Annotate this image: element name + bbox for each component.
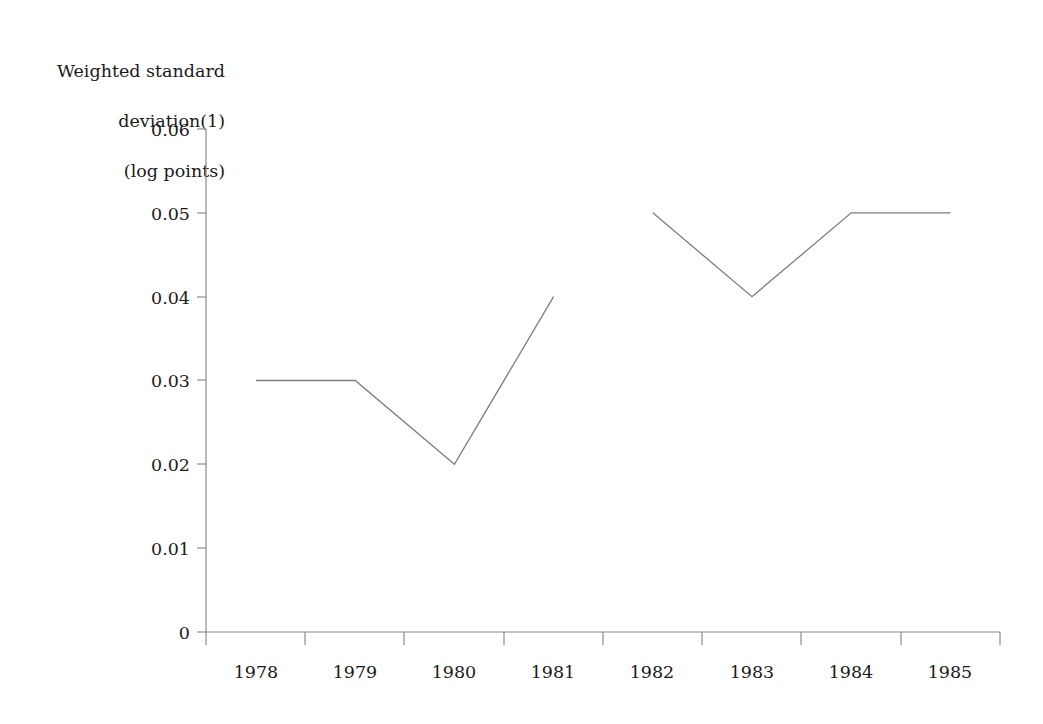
data-line-2: [653, 213, 951, 297]
x-tick-label-1984: 1984: [829, 662, 874, 682]
y-tick-label-0.05: 0.05: [151, 204, 190, 224]
x-axis-ticks: [206, 632, 1000, 645]
x-tick-label-1978: 1978: [234, 662, 279, 682]
x-axis-tick-labels: 1978 1979 1980 1981 1982 1983 1984 1985: [234, 662, 973, 682]
y-tick-label-0.06: 0.06: [151, 120, 190, 140]
chart-plot-area: 0.06 0.05 0.04 0.03 0.02 0.01 0 1978 197…: [0, 0, 1043, 724]
data-series-group: [256, 213, 950, 464]
y-axis-ticks: [197, 129, 206, 632]
y-tick-label-0: 0: [179, 623, 190, 643]
x-tick-label-1985: 1985: [928, 662, 973, 682]
y-tick-label-0.04: 0.04: [151, 288, 190, 308]
x-tick-label-1983: 1983: [730, 662, 775, 682]
x-tick-label-1981: 1981: [531, 662, 576, 682]
x-tick-label-1980: 1980: [432, 662, 477, 682]
y-axis-tick-labels: 0.06 0.05 0.04 0.03 0.02 0.01 0: [151, 120, 190, 643]
y-tick-label-0.01: 0.01: [151, 539, 190, 559]
y-tick-label-0.02: 0.02: [151, 455, 190, 475]
chart-container: Weighted standard deviation(1) (log poin…: [0, 0, 1043, 724]
data-line-1: [256, 297, 554, 465]
x-tick-label-1982: 1982: [630, 662, 675, 682]
y-tick-label-0.03: 0.03: [151, 371, 190, 391]
x-tick-label-1979: 1979: [333, 662, 378, 682]
